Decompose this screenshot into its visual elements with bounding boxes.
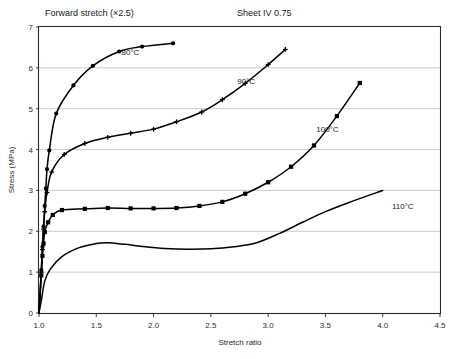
data-marker [151, 206, 155, 210]
data-marker [46, 220, 50, 224]
sheet-label: Sheet IV 0.75 [237, 8, 292, 18]
y-tick-label: 7 [29, 23, 34, 32]
data-marker [40, 254, 44, 258]
series-label-80C: 80°C [121, 48, 139, 57]
x-axis-title: Stretch ratio [218, 338, 262, 347]
data-marker [41, 241, 45, 245]
chart-background [0, 0, 460, 359]
series-label-110C: 110°C [392, 202, 414, 211]
x-tick-label: 3.5 [320, 321, 332, 330]
y-axis-title: Stress (MPa) [7, 146, 16, 193]
data-marker [106, 206, 110, 210]
y-tick-label: 5 [29, 105, 34, 114]
data-marker [140, 45, 144, 49]
x-tick-label: 1.5 [91, 321, 103, 330]
y-tick-label: 0 [29, 309, 34, 318]
data-marker [358, 81, 362, 85]
data-marker [51, 213, 55, 217]
data-marker [312, 143, 316, 147]
forward-stretch-note: Forward stretch (×2.5) [45, 8, 134, 18]
chart-container: Forward stretch (×2.5) Sheet IV 0.75 012… [0, 0, 460, 359]
x-tick-label: 1.0 [33, 321, 45, 330]
data-marker [129, 206, 133, 210]
data-marker [44, 186, 48, 190]
data-marker [47, 148, 51, 152]
series-label-90C: 90°C [237, 77, 255, 86]
y-tick-label: 4 [29, 146, 34, 155]
y-tick-label: 2 [29, 227, 34, 236]
data-marker [197, 204, 201, 208]
data-marker [91, 64, 95, 68]
data-marker [243, 192, 247, 196]
series-label-100C: 100°C [316, 125, 339, 134]
data-marker [45, 167, 49, 171]
data-marker [220, 200, 224, 204]
x-tick-label: 2.0 [148, 321, 160, 330]
data-marker [43, 230, 47, 234]
x-tick-label: 4.5 [434, 321, 446, 330]
data-marker [266, 180, 270, 184]
data-marker [54, 112, 58, 116]
x-tick-label: 4.0 [377, 321, 389, 330]
data-marker [43, 204, 47, 208]
data-marker [174, 206, 178, 210]
x-tick-label: 3.0 [263, 321, 275, 330]
data-marker [171, 41, 175, 45]
data-marker [335, 114, 339, 118]
data-marker [60, 208, 64, 212]
stress-stretch-chart: Forward stretch (×2.5) Sheet IV 0.75 012… [0, 0, 460, 359]
data-marker [39, 273, 43, 277]
y-tick-label: 6 [29, 64, 34, 73]
y-tick-label: 3 [29, 186, 34, 195]
data-marker [83, 207, 87, 211]
x-tick-label: 2.5 [205, 321, 217, 330]
y-tick-label: 1 [29, 268, 34, 277]
data-marker [71, 83, 75, 87]
data-marker [289, 165, 293, 169]
